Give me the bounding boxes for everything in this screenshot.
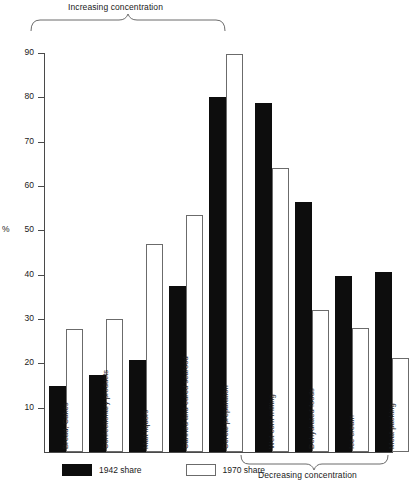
category-label: Wet corn milling <box>267 394 276 449</box>
category-label: Bread, Cakes <box>61 402 70 449</box>
y-tick-60 <box>38 186 44 187</box>
category-label: Malt liquors <box>141 410 150 449</box>
y-tick-label-30: 30 <box>12 313 34 323</box>
plot-area: Bread, CakesConfectionary productsMalt l… <box>45 53 393 452</box>
increasing-concentration-label: Increasing concentration <box>68 2 163 12</box>
legend-swatch-black <box>62 464 92 476</box>
bar-group: Cereal preparation <box>209 53 243 452</box>
y-tick-label-10: 10 <box>12 402 34 412</box>
legend-item: 1942 share <box>62 464 142 476</box>
legend-swatch-white <box>186 464 216 476</box>
y-tick-label-90: 90 <box>12 47 34 57</box>
y-tick-50 <box>38 230 44 231</box>
y-tick-label-70: 70 <box>12 136 34 146</box>
category-label: Confectionary products <box>101 370 110 449</box>
increasing-concentration-bracket <box>30 14 230 32</box>
bar-group: Malt liquors <box>129 53 163 452</box>
y-tick-90 <box>38 53 44 54</box>
y-tick-label-60: 60 <box>12 180 34 190</box>
category-label: Ice cream <box>347 415 356 449</box>
category-label: Dehydrated foods <box>307 388 316 449</box>
y-tick-label-50: 50 <box>12 224 34 234</box>
y-tick-10 <box>38 408 44 409</box>
chart-legend: 1942 share1970 share <box>62 464 265 476</box>
bar-group: Wet corn milling <box>255 53 289 452</box>
y-tick-20 <box>38 363 44 364</box>
bar-group: Canned and cured seafood <box>169 53 203 452</box>
y-tick-label-80: 80 <box>12 91 34 101</box>
category-label: Meat packing <box>387 403 396 449</box>
legend-label: 1942 share <box>99 465 142 475</box>
bar-group: Dehydrated foods <box>295 53 329 452</box>
y-tick-40 <box>38 275 44 276</box>
category-label: Canned and cured seafood <box>181 356 190 449</box>
legend-label: 1970 share <box>223 465 266 475</box>
y-axis-title: % <box>2 224 10 234</box>
category-label: Cereal preparation <box>221 385 230 449</box>
decreasing-concentration-label: Decreasing concentration <box>258 470 357 480</box>
y-tick-70 <box>38 142 44 143</box>
x-axis-baseline <box>44 452 393 453</box>
bar-group: Confectionary products <box>89 53 123 452</box>
bar-group: Meat packing <box>375 53 409 452</box>
bar-group: Bread, Cakes <box>49 53 83 452</box>
y-tick-30 <box>38 319 44 320</box>
legend-item: 1970 share <box>186 464 266 476</box>
y-tick-label-40: 40 <box>12 269 34 279</box>
y-tick-80 <box>38 97 44 98</box>
y-tick-label-20: 20 <box>12 357 34 367</box>
bar-group: Ice cream <box>335 53 369 452</box>
